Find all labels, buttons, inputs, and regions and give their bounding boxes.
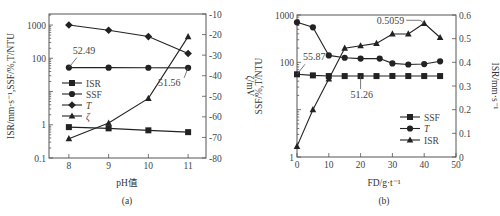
series-line: [297, 74, 440, 76]
x-tick-label: 20: [356, 160, 366, 170]
x-tick-label: 8: [66, 161, 71, 171]
y-right-tick-label: -60: [209, 112, 222, 122]
legend-label: ζ: [86, 112, 91, 123]
y-right-tick-label: 0.2: [459, 105, 471, 115]
circle-marker-icon: [310, 24, 316, 30]
diamond-marker-icon: [105, 26, 113, 34]
chart-panel-a: 8910110.111001000-10-20-30-40-50-60-70-8…: [6, 10, 255, 208]
x-tick-label: 40: [419, 160, 429, 170]
series-isr: [66, 124, 191, 135]
x-tick-label: 11: [184, 161, 193, 171]
circle-marker-icon: [377, 55, 383, 61]
legend-label: ISR: [424, 136, 439, 146]
annotation-label: 52.49: [73, 45, 96, 56]
x-tick-label: 9: [106, 161, 111, 171]
y-right-tick-label: 0.5: [459, 34, 471, 44]
panel-caption: (b): [378, 196, 389, 207]
legend-label: SSF: [424, 113, 440, 123]
square-marker-icon: [374, 73, 380, 79]
square-marker-icon: [437, 73, 443, 79]
y-left-tick-label: 100: [32, 54, 47, 64]
y-right-tick-label: -50: [209, 92, 222, 102]
legend-square-icon: [407, 114, 413, 120]
circle-marker-icon: [437, 58, 443, 64]
diamond-marker-icon: [145, 33, 153, 41]
triangle-marker-icon: [310, 106, 317, 112]
y-left-axis-label: ISR/mm·s⁻¹,SSF/%,T/NTU: [6, 33, 16, 139]
legend-label: T: [86, 101, 92, 111]
x-tick-label: 10: [144, 161, 154, 171]
circle-marker-icon: [405, 61, 411, 67]
x-tick-label: 0: [295, 160, 300, 170]
y-right-tick-label: 0.3: [459, 82, 471, 92]
annotation-label: 51.26: [351, 89, 374, 100]
y-right-tick-label: -10: [209, 10, 222, 20]
y-right-axis-label: ISR/mm·s⁻¹: [490, 63, 500, 110]
legend-label: SSF: [86, 90, 102, 100]
y-left-axis-label: SSF/%,T/NTU: [254, 57, 264, 114]
legend: ISRSSFTζ: [62, 79, 102, 123]
y-right-tick-label: 0.6: [459, 11, 471, 21]
y-right-tick-label: -80: [209, 154, 222, 164]
chart-panel-b: 010203040501100100000.10.20.30.40.50.6FD…: [254, 11, 500, 208]
y-left-tick-label: 0.1: [34, 154, 46, 164]
triangle-marker-icon: [294, 143, 301, 149]
series-ssf: [66, 64, 191, 70]
legend: SSFTISR: [400, 113, 440, 146]
y-right-tick-label: -40: [209, 71, 222, 81]
legend-circle-icon: [69, 91, 75, 97]
square-marker-icon: [145, 127, 151, 133]
y-left-tick-label: 1000: [275, 11, 294, 21]
annotation-leader: [69, 58, 77, 68]
y-left-tick-label: 1000: [27, 21, 46, 31]
square-marker-icon: [106, 125, 112, 131]
y-right-tick-label: 0.1: [459, 129, 471, 139]
circle-marker-icon: [106, 65, 112, 71]
annotation-label: 55.87: [303, 51, 326, 62]
legend-circle-icon: [407, 125, 413, 131]
y-left-tick-label: 1: [289, 153, 294, 163]
legend-label: ISR: [86, 79, 101, 89]
circle-marker-icon: [294, 19, 300, 25]
y-right-tick-label: -70: [209, 133, 222, 143]
legend-diamond-icon: [68, 101, 76, 109]
x-axis-label: pH值: [116, 177, 138, 188]
square-marker-icon: [185, 129, 191, 135]
triangle-marker-icon: [185, 33, 192, 39]
series-line: [297, 23, 440, 146]
square-marker-icon: [421, 73, 427, 79]
y-left-tick-label: 100: [280, 58, 295, 68]
triangle-marker-icon: [373, 40, 380, 46]
y-right-tick-label: 0.4: [459, 58, 471, 68]
legend-label: T: [424, 124, 430, 134]
diamond-marker-icon: [65, 21, 73, 29]
square-marker-icon: [310, 72, 316, 78]
y-right-tick-label: -30: [209, 51, 222, 61]
y-right-tick-label: 0: [459, 153, 464, 163]
x-tick-label: 10: [324, 160, 334, 170]
legend-square-icon: [69, 80, 75, 86]
series-ssf: [294, 71, 443, 79]
y-right-tick-label: -20: [209, 30, 222, 40]
circle-marker-icon: [421, 61, 427, 67]
circle-marker-icon: [389, 60, 395, 66]
square-marker-icon: [389, 73, 395, 79]
x-tick-label: 30: [388, 160, 398, 170]
annotation-label: 51.56: [158, 77, 181, 88]
square-marker-icon: [342, 73, 348, 79]
triangle-marker-icon: [421, 20, 428, 26]
circle-marker-icon: [342, 55, 348, 61]
series-isr: [294, 20, 444, 149]
circle-marker-icon: [326, 52, 332, 58]
x-axis-label: FD/g·t⁻¹: [367, 178, 400, 188]
panel-caption: (a): [122, 196, 133, 207]
circle-marker-icon: [358, 55, 364, 61]
triangle-marker-icon: [105, 119, 112, 125]
square-marker-icon: [405, 73, 411, 79]
y-left-tick-label: 1: [41, 120, 46, 130]
figure: 8910110.111001000-10-20-30-40-50-60-70-8…: [0, 0, 500, 216]
square-marker-icon: [66, 124, 72, 130]
diamond-marker-icon: [184, 50, 192, 58]
circle-marker-icon: [145, 65, 151, 71]
annotation-label: 0.5059: [377, 15, 405, 26]
